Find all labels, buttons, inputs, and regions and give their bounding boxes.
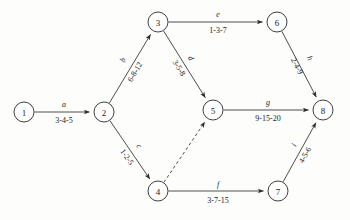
activity-arrow-d: [164, 31, 206, 98]
event-node-label-6: 6: [275, 18, 280, 28]
activity-arrow-c: [110, 121, 150, 179]
event-node-label-1: 1: [22, 108, 27, 118]
activity-duration-i: 4-5-6: [297, 145, 313, 165]
network-diagram: 12345678 a3-4-5b6-8-12c1-2-5d3-5-8e1-3-7…: [0, 0, 350, 220]
activity-name-f: f: [217, 180, 221, 189]
activity-name-d: d: [186, 54, 196, 63]
activity-arrow-b: [109, 34, 150, 103]
activity-name-h: h: [305, 54, 315, 62]
diagram-canvas: 12345678 a3-4-5b6-8-12c1-2-5d3-5-8e1-3-7…: [0, 0, 350, 220]
activity-duration-e: 1-3-7: [209, 26, 226, 35]
activity-duration-g: 9-15-20: [255, 114, 280, 123]
activity-name-b: b: [118, 56, 128, 64]
event-node-label-3: 3: [156, 18, 161, 28]
activity-duration-a: 3-4-5: [55, 116, 72, 125]
event-node-label-2: 2: [102, 108, 107, 118]
dummy-activity-arrow: [164, 122, 205, 182]
activity-duration-d: 3-5-8: [171, 58, 188, 77]
event-node-label-7: 7: [276, 187, 281, 197]
edges-layer: [35, 22, 317, 191]
edge-labels-layer: a3-4-5b6-8-12c1-2-5d3-5-8e1-3-7f3-7-15g9…: [55, 10, 315, 205]
event-node-label-8: 8: [321, 106, 326, 116]
activity-name-c: c: [134, 142, 144, 150]
activity-duration-f: 3-7-15: [207, 196, 228, 205]
event-node-label-4: 4: [156, 187, 161, 197]
activity-duration-c: 1-2-5: [118, 147, 135, 166]
event-node-label-5: 5: [211, 106, 216, 116]
activity-name-e: e: [216, 10, 220, 19]
activity-name-g: g: [266, 98, 270, 107]
activity-name-a: a: [62, 100, 66, 109]
activity-name-i: i: [290, 142, 299, 148]
activity-duration-h: 2-4-9: [289, 56, 305, 76]
